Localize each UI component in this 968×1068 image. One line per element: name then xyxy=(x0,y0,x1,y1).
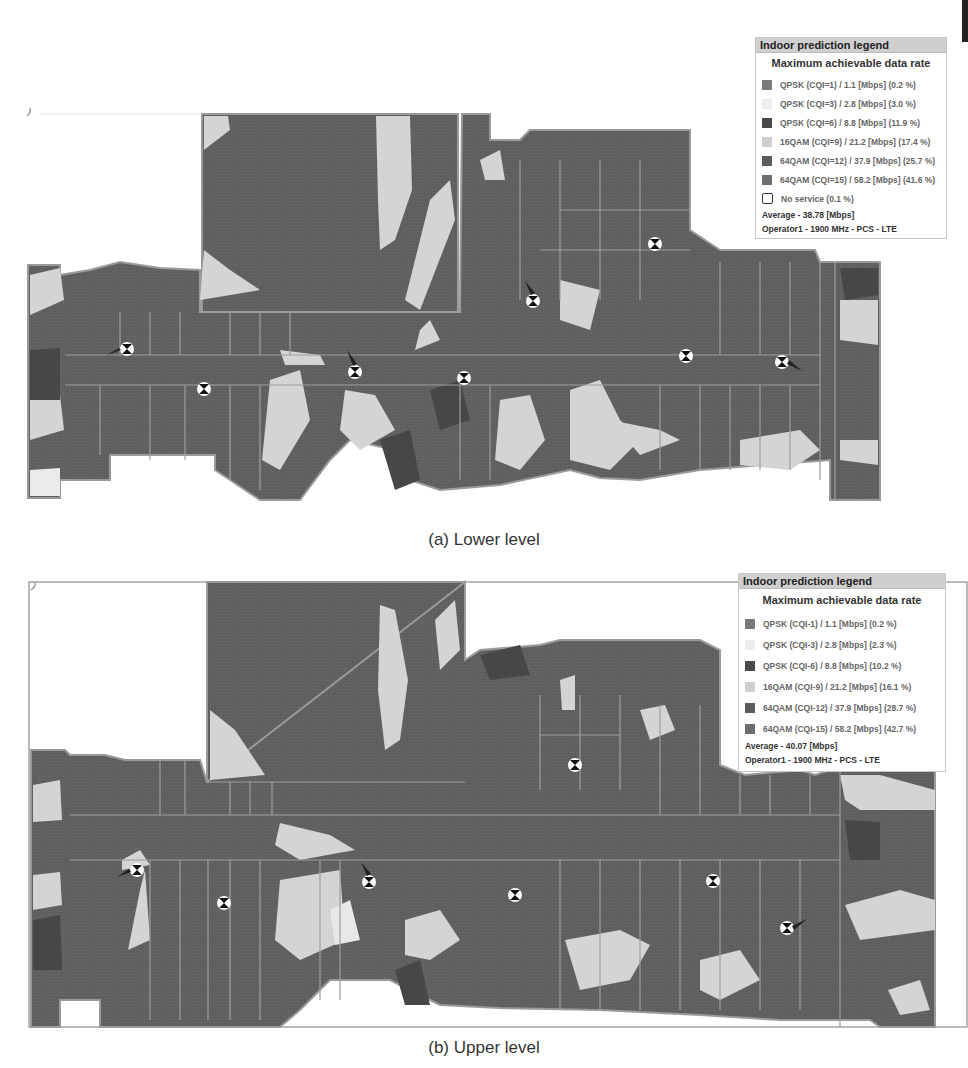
access-point-icon xyxy=(648,237,662,251)
legend-operator: Operator1 - 1900 MHz - PCS - LTE xyxy=(756,222,946,238)
figure-upper-level: Indoor prediction legend Maximum achieva… xyxy=(0,560,968,1068)
legend-average: Average - 38.78 [Mbps] xyxy=(756,208,946,222)
swatch-icon xyxy=(762,99,772,109)
legend-item-cqi3: QPSK (CQI=3) / 2.8 [Mbps] (3.0 %) xyxy=(756,94,946,113)
access-point-icon xyxy=(457,371,471,385)
swatch-icon xyxy=(745,703,755,713)
legend-item-cqi3: QPSK (CQI-3) / 2.8 [Mbps] (2.3 %) xyxy=(739,634,945,655)
legend-average: Average - 40.07 [Mbps] xyxy=(739,739,945,753)
legend-item-cqi12: 64QAM (CQI=12) / 37.9 [Mbps] (25.7 %) xyxy=(756,151,946,170)
legend-item-no-service: No service (0.1 %) xyxy=(756,189,946,208)
swatch-icon xyxy=(762,137,772,147)
legend-item-cqi9: 16QAM (CQI=9) / 21.2 [Mbps] (17.4 %) xyxy=(756,132,946,151)
access-point-icon xyxy=(197,382,211,396)
swatch-icon xyxy=(762,118,772,128)
legend-subtitle: Maximum achievable data rate xyxy=(756,53,946,75)
access-point-icon xyxy=(568,758,582,772)
legend-item-cqi6: QPSK (CQI-6) / 8.8 [Mbps] (10.2 %) xyxy=(739,655,945,676)
legend-subtitle: Maximum achievable data rate xyxy=(739,589,945,613)
legend-operator: Operator1 - 1900 MHz - PCS - LTE xyxy=(739,753,945,771)
legend-upper: Indoor prediction legend Maximum achieva… xyxy=(738,573,946,772)
swatch-icon xyxy=(745,724,755,734)
swatch-icon xyxy=(762,175,772,185)
corner-mark-icon xyxy=(27,108,30,116)
figure-lower-level: Indoor prediction legend Maximum achieva… xyxy=(0,0,968,560)
caption-lower-level: (a) Lower level xyxy=(0,530,968,550)
swatch-icon xyxy=(745,682,755,692)
access-point-icon xyxy=(217,896,231,910)
legend-lower: Indoor prediction legend Maximum achieva… xyxy=(755,37,947,239)
legend-item-cqi9: 16QAM (CQI-9) / 21.2 [Mbps] (16.1 %) xyxy=(739,676,945,697)
legend-item-cqi1: QPSK (CQI=1) / 1.1 [Mbps] (0.2 %) xyxy=(756,75,946,94)
swatch-icon xyxy=(745,640,755,650)
corner-mark-icon xyxy=(31,582,35,590)
legend-item-cqi15: 64QAM (CQI=15) / 58.2 [Mbps] (41.6 %) xyxy=(756,170,946,189)
legend-item-cqi15: 64QAM (CQI-15) / 58.2 [Mbps] (42.7 %) xyxy=(739,718,945,739)
legend-title: Indoor prediction legend xyxy=(739,574,945,589)
access-point-icon xyxy=(508,888,522,902)
empty-swatch-icon xyxy=(762,193,773,204)
access-point-icon xyxy=(679,349,693,363)
access-point-icon xyxy=(706,874,720,888)
swatch-icon xyxy=(745,661,755,671)
swatch-icon xyxy=(745,619,755,629)
legend-item-cqi12: 64QAM (CQI-12) / 37.9 [Mbps] (28.7 %) xyxy=(739,697,945,718)
legend-item-cqi1: QPSK (CQI-1) / 1.1 [Mbps] (0.2 %) xyxy=(739,613,945,634)
swatch-icon xyxy=(762,156,772,166)
caption-upper-level: (b) Upper level xyxy=(0,1038,968,1058)
legend-item-cqi6: QPSK (CQI=6) / 8.8 [Mbps] (11.9 %) xyxy=(756,113,946,132)
legend-title: Indoor prediction legend xyxy=(756,38,946,53)
swatch-icon xyxy=(762,80,772,90)
